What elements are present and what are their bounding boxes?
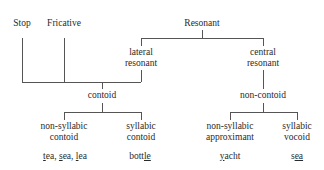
node-stop: Stop <box>13 18 30 29</box>
example-non-syllabic-contoid: tea, sea, lea <box>43 151 87 162</box>
node-lateral-resonant: lateral resonant <box>125 47 157 69</box>
example-syllabic-vocoid: sea <box>291 151 303 162</box>
example-syllabic-contoid: bottle <box>129 151 151 162</box>
node-non-syllabic-contoid: non-syllabic contoid <box>41 121 88 143</box>
node-non-syllabic-approximant: non-syllabic approximant <box>206 121 254 143</box>
example-non-syllabic-approximant: yacht <box>220 151 241 162</box>
node-syllabic-contoid: syllabic contoid <box>126 121 156 143</box>
node-syllabic-vocoid: syllabic vocoid <box>282 121 312 143</box>
node-central-resonant: central resonant <box>247 47 279 69</box>
node-non-contoid: non-contoid <box>240 90 286 101</box>
node-fricative: Fricative <box>47 18 81 29</box>
node-resonant: Resonant <box>184 18 219 29</box>
node-contoid: contoid <box>88 90 117 101</box>
